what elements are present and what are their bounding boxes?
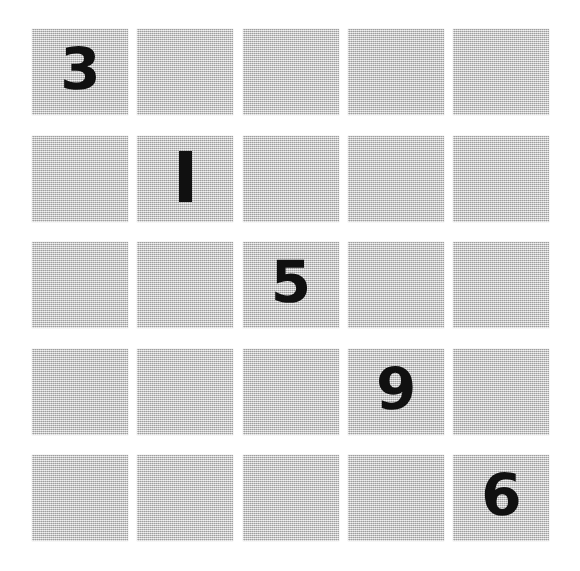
cell-digit-r5c5: 6 (481, 466, 520, 524)
grid-cell-r3c5[interactable] (453, 242, 549, 328)
number-grid: 3 1 (32, 29, 549, 541)
cell-digit-r4c4: 9 (376, 360, 415, 418)
grid-cell-r3c3[interactable]: 5 (243, 242, 339, 328)
grid-cell-r3c2[interactable] (137, 242, 233, 328)
grid-cell-r4c3[interactable] (243, 349, 339, 435)
cell-digit-r1c1: 3 (60, 40, 99, 98)
grid-cell-r4c5[interactable] (453, 349, 549, 435)
grid-cell-r2c4[interactable] (348, 136, 444, 222)
grid-cell-r3c1[interactable] (32, 242, 128, 328)
grid-cell-r2c5[interactable] (453, 136, 549, 222)
grid-cell-r1c1[interactable]: 3 (32, 29, 128, 115)
grid-cell-r5c1[interactable] (32, 455, 128, 541)
grid-canvas: 3 1 (0, 0, 580, 571)
grid-cell-r5c3[interactable] (243, 455, 339, 541)
grid-cell-r2c1[interactable] (32, 136, 128, 222)
grid-cell-r4c1[interactable] (32, 349, 128, 435)
grid-cell-r4c2[interactable] (137, 349, 233, 435)
grid-cell-r2c2[interactable]: 1 (137, 136, 233, 222)
cell-digit-r3c3: 5 (271, 253, 310, 311)
cell-digit-r2c2: 1 (179, 151, 192, 202)
grid-cell-r2c3[interactable] (243, 136, 339, 222)
grid-cell-r1c2[interactable] (137, 29, 233, 115)
grid-cell-r5c4[interactable] (348, 455, 444, 541)
grid-cell-r5c5[interactable]: 6 (453, 455, 549, 541)
grid-cell-r5c2[interactable] (137, 455, 233, 541)
grid-cell-r1c3[interactable] (243, 29, 339, 115)
grid-cell-r3c4[interactable] (348, 242, 444, 328)
grid-cell-r4c4[interactable]: 9 (348, 349, 444, 435)
grid-cell-r1c5[interactable] (453, 29, 549, 115)
grid-cell-r1c4[interactable] (348, 29, 444, 115)
